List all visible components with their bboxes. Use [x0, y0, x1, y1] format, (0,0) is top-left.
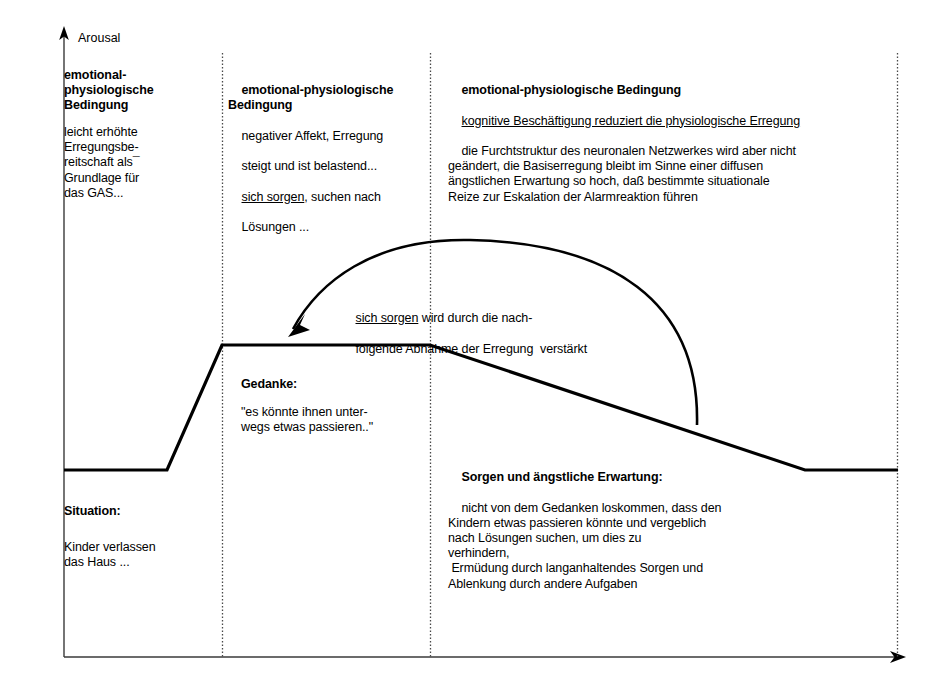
situation-heading: Situation: — [64, 504, 244, 519]
sorgen-body: nicht von dem Gedanken loskommen, dass d… — [448, 501, 721, 591]
phase-3-underlined-line: kognitive Beschäftigung reduziert die ph… — [462, 114, 801, 128]
feedback-annotation: sich sorgen wird durch die nach- folgend… — [342, 296, 672, 372]
phase-3-body: die Furchtstruktur des neuronalen Netzwe… — [448, 144, 796, 204]
diagram-canvas: Arousal emotional- physiologische Beding… — [0, 0, 934, 695]
phase-3-heading: emotional-physiologische Bedingung — [462, 83, 682, 97]
phase-2-line-2: steigt und ist belastend... — [242, 159, 378, 173]
sorgen-block: Sorgen und ängstliche Erwartung: nicht v… — [448, 455, 848, 607]
phase-2-line-3-rest: , suchen nach — [304, 190, 381, 204]
phase-2-line-4: Lösungen ... — [242, 220, 310, 234]
x-axis — [64, 651, 906, 663]
feedback-annotation-line-1: wird durch die nach- — [418, 311, 532, 325]
phase-1-heading: emotional- physiologische Bedingung — [64, 68, 214, 114]
gedanke-body: "es könnte ihnen unter- wegs etwas passi… — [241, 405, 441, 435]
gedanke-heading: Gedanke: — [241, 377, 431, 392]
phase-2-block: emotional-physiologische Bedingung negat… — [228, 68, 433, 250]
phase-2-heading: emotional-physiologische Bedingung — [228, 83, 393, 112]
sorgen-heading: Sorgen und ängstliche Erwartung: — [462, 470, 663, 484]
feedback-annotation-keyword: sich sorgen — [356, 311, 419, 325]
phase-1-body: leicht erhöhte Erregungsbe- reitschaft a… — [64, 125, 219, 201]
feedback-annotation-line-2: folgende Abnahme der Erregung verstärkt — [356, 342, 588, 356]
phase-3-block: emotional-physiologische Bedingung kogni… — [448, 68, 918, 220]
situation-body: Kinder verlassen das Haus ... — [64, 540, 244, 570]
phase-2-keyword: sich sorgen — [242, 190, 305, 204]
y-axis-label: Arousal — [78, 31, 120, 45]
phase-2-line-1: negativer Affekt, Erregung — [242, 129, 384, 143]
